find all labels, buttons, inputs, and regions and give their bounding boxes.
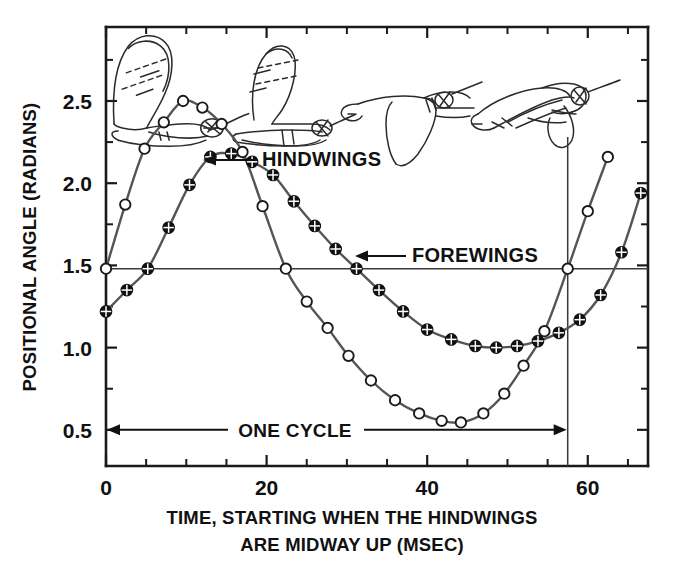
data-point-forewings-17 (470, 340, 481, 351)
marker-open-circle (436, 416, 446, 426)
x-axis-title-line1: TIME, STARTING WHEN THE HINDWINGS (166, 507, 537, 528)
y-tick-label-1.5: 1.5 (63, 254, 93, 277)
data-point-forewings-7 (247, 156, 258, 167)
x-tick-label-20: 20 (255, 476, 278, 499)
data-point-hindwings-8 (257, 201, 267, 211)
data-point-hindwings-22 (563, 263, 573, 273)
marker-open-circle (322, 323, 332, 333)
marker-open-circle (414, 408, 424, 418)
data-point-forewings-22 (574, 314, 585, 325)
data-point-forewings-23 (595, 289, 606, 300)
data-point-forewings-24 (616, 247, 627, 258)
data-point-hindwings-18 (478, 408, 488, 418)
x-tick-label-60: 60 (576, 476, 599, 499)
data-point-forewings-19 (512, 340, 523, 351)
marker-open-circle (603, 152, 613, 162)
data-point-hindwings-7 (237, 147, 247, 157)
data-point-forewings-8 (267, 169, 278, 180)
y-axis-title: POSITIONAL ANGLE (RADIANS) (19, 103, 40, 392)
data-point-hindwings-14 (390, 395, 400, 405)
data-point-forewings-21 (553, 327, 564, 338)
data-point-hindwings-1 (120, 199, 130, 209)
x-axis-title-line2: ARE MIDWAY UP (MSEC) (240, 534, 464, 555)
marker-open-circle (390, 395, 400, 405)
data-point-forewings-4 (184, 179, 195, 190)
y-tick-label-0.5: 0.5 (63, 419, 93, 442)
data-point-hindwings-9 (281, 263, 291, 273)
data-point-forewings-11 (330, 243, 341, 254)
data-point-hindwings-0 (101, 263, 111, 273)
y-tick-label-2.5: 2.5 (63, 90, 93, 113)
data-point-forewings-14 (397, 306, 408, 317)
data-point-forewings-2 (142, 263, 153, 274)
y-tick-label-2: 2.0 (63, 172, 92, 195)
marker-open-circle (583, 206, 593, 216)
marker-open-circle (478, 408, 488, 418)
data-point-forewings-12 (351, 263, 362, 274)
marker-open-circle (302, 296, 312, 306)
marker-open-circle (139, 143, 149, 153)
data-point-hindwings-17 (456, 417, 466, 427)
marker-open-circle (456, 417, 466, 427)
data-point-hindwings-23 (583, 206, 593, 216)
data-point-hindwings-11 (322, 323, 332, 333)
data-point-hindwings-19 (499, 388, 509, 398)
marker-open-circle (518, 361, 528, 371)
marker-open-circle (499, 388, 509, 398)
marker-open-circle (281, 263, 291, 273)
forewings-label: FOREWINGS (412, 244, 538, 266)
data-point-forewings-1 (121, 284, 132, 295)
data-point-hindwings-21 (539, 326, 549, 336)
marker-open-circle (563, 263, 573, 273)
data-point-forewings-18 (491, 342, 502, 353)
marker-open-circle (216, 119, 226, 129)
marker-open-circle (257, 201, 267, 211)
marker-open-circle (343, 351, 353, 361)
data-point-hindwings-16 (436, 416, 446, 426)
data-point-hindwings-5 (197, 102, 207, 112)
chart-figure: 0204060 0.51.01.52.02.5 (0, 0, 676, 585)
data-point-forewings-15 (422, 324, 433, 335)
y-tick-label-1: 1.0 (63, 337, 92, 360)
data-point-hindwings-6 (216, 119, 226, 129)
one-cycle-label: ONE CYCLE (238, 420, 352, 441)
data-point-hindwings-4 (178, 96, 188, 106)
data-point-forewings-6 (226, 148, 237, 159)
data-point-hindwings-12 (343, 351, 353, 361)
data-point-forewings-25 (635, 187, 646, 198)
data-point-forewings-0 (100, 306, 111, 317)
data-point-hindwings-15 (414, 408, 424, 418)
x-tick-label-0: 0 (100, 476, 112, 499)
data-point-hindwings-20 (518, 361, 528, 371)
marker-open-circle (366, 375, 376, 385)
data-point-hindwings-13 (366, 375, 376, 385)
data-point-forewings-9 (288, 196, 299, 207)
marker-open-circle (159, 117, 169, 127)
marker-open-circle (237, 147, 247, 157)
data-point-hindwings-10 (302, 296, 312, 306)
data-point-forewings-16 (446, 334, 457, 345)
marker-open-circle (539, 326, 549, 336)
data-point-forewings-10 (309, 220, 320, 231)
data-point-hindwings-2 (139, 143, 149, 153)
data-point-forewings-20 (532, 335, 543, 346)
marker-open-circle (101, 263, 111, 273)
data-point-forewings-3 (163, 222, 174, 233)
marker-open-circle (120, 199, 130, 209)
chart-svg: 0204060 0.51.01.52.02.5 (0, 0, 676, 585)
marker-open-circle (178, 96, 188, 106)
x-tick-label-40: 40 (416, 476, 439, 499)
data-point-hindwings-24 (603, 152, 613, 162)
data-point-hindwings-3 (159, 117, 169, 127)
data-point-forewings-13 (373, 284, 384, 295)
marker-open-circle (197, 102, 207, 112)
hindwings-label: HINDWINGS (262, 148, 381, 170)
